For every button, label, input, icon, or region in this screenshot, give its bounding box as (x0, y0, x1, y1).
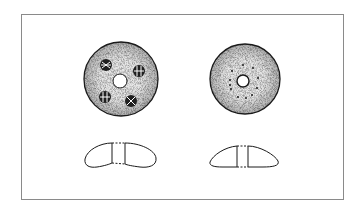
right-profile (210, 146, 278, 167)
right-disc (210, 44, 280, 114)
cross-circle-icon (100, 59, 112, 71)
cross-circle-icon (133, 65, 145, 77)
figure-frame (22, 15, 344, 200)
cross-circle-icon (99, 91, 111, 103)
cross-circle-icon (125, 95, 137, 107)
center-hole (113, 74, 127, 88)
center-hole (237, 75, 249, 87)
diagram-figure (0, 0, 359, 208)
left-disc (84, 42, 158, 116)
left-profile (85, 143, 156, 167)
